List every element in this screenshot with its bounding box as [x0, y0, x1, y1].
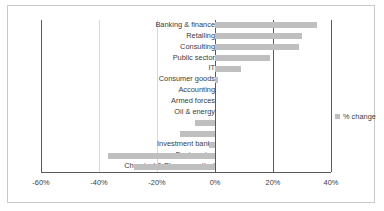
chart-row: Consulting: [41, 42, 331, 53]
chart-row: Public sector: [41, 53, 331, 64]
bar-11: [209, 142, 215, 148]
gridline-40: [331, 20, 332, 172]
category-label-4: IT: [41, 63, 217, 74]
bar-3: [215, 55, 270, 61]
chart-row: Consumer goods: [41, 74, 331, 85]
chart-frame: Banking & financeRetailingConsultingPubl…: [7, 5, 375, 203]
x-tick-label--40: -40%: [79, 178, 119, 187]
chart-row: Banking & finance: [41, 20, 331, 31]
bar-10: [180, 131, 215, 137]
category-label-6: Accounting: [41, 85, 217, 96]
category-label-0: Banking & finance: [41, 20, 217, 31]
chart-row: Accounting: [41, 85, 331, 96]
x-tick-label-40: 40%: [311, 178, 351, 187]
category-label-2: Consulting: [41, 42, 217, 53]
x-tick-label-20: 20%: [253, 178, 293, 187]
category-label-7: Armed forces: [41, 96, 217, 107]
bar-4: [215, 66, 241, 72]
chart-row: Media: [41, 129, 331, 140]
bar-12: [108, 153, 215, 159]
chart-row: Law: [41, 118, 331, 129]
chart-legend: % change: [335, 112, 376, 121]
chart-row: Engineering: [41, 150, 331, 161]
x-tick-label-0: 0%: [195, 178, 235, 187]
legend-label-pct-change: % change: [343, 112, 376, 121]
bar-9: [195, 120, 215, 126]
chart-row: Armed forces: [41, 96, 331, 107]
category-label-9: Law: [41, 118, 217, 129]
category-label-5: Consumer goods: [41, 74, 217, 85]
chart-row: Oil & energy: [41, 107, 331, 118]
category-label-8: Oil & energy: [41, 107, 217, 118]
bar-2: [215, 44, 299, 50]
category-label-1: Retailing: [41, 31, 217, 42]
category-label-11: Investment banks: [41, 139, 217, 150]
chart-row: Investment banks: [41, 139, 331, 150]
chart-row: IT: [41, 63, 331, 74]
bar-13: [134, 164, 215, 170]
x-tick-label--60: -60%: [21, 178, 61, 187]
bar-0: [215, 22, 317, 28]
category-label-3: Public sector: [41, 53, 217, 64]
chart-row: Chemical & Pharmaceutical: [41, 161, 331, 172]
legend-swatch-pct-change: [335, 114, 340, 119]
bar-1: [215, 33, 302, 39]
chart-row: Retailing: [41, 31, 331, 42]
bar-5: [215, 77, 218, 83]
x-axis-line: [41, 172, 331, 173]
plot-area: Banking & financeRetailingConsultingPubl…: [41, 20, 331, 172]
x-tick-label--20: -20%: [137, 178, 177, 187]
